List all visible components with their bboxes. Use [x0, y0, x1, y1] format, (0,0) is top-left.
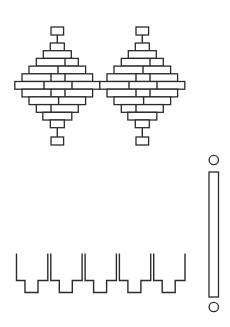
top-box — [136, 27, 149, 35]
notched-unit-3 — [85, 254, 116, 293]
notched-unit-2 — [51, 254, 82, 293]
brick-row — [43, 51, 71, 59]
brick-row — [22, 74, 93, 82]
brick-row — [135, 120, 149, 128]
brick-row — [29, 97, 86, 105]
brick-diamond-1 — [15, 27, 100, 145]
brick-row — [22, 89, 93, 97]
brick-row — [128, 51, 156, 59]
bottom-box — [51, 137, 64, 145]
notched-unit-5 — [154, 254, 185, 293]
brick-row — [107, 89, 178, 97]
brick-row — [50, 43, 64, 51]
pattern-diagram — [0, 0, 230, 327]
notched-unit-1 — [17, 254, 48, 293]
brick-row — [114, 97, 171, 105]
brick-row — [50, 120, 64, 128]
brick-row — [15, 82, 100, 90]
notched-strip — [17, 254, 186, 293]
top-circle-icon — [209, 155, 218, 164]
notched-unit-4 — [119, 254, 150, 293]
brick-row — [36, 58, 78, 66]
brick-row — [121, 105, 163, 113]
vertical-bar — [209, 172, 219, 297]
brick-row — [36, 105, 78, 113]
brick-diamond-group — [15, 27, 185, 145]
top-box — [51, 27, 64, 35]
brick-row — [128, 112, 157, 120]
brick-row — [107, 74, 178, 82]
brick-row — [135, 43, 149, 51]
bottom-box — [136, 137, 149, 145]
brick-row — [43, 112, 72, 120]
brick-diamond-2 — [100, 27, 185, 145]
bottom-circle-icon — [209, 302, 218, 311]
brick-row — [100, 82, 185, 90]
brick-row — [121, 58, 163, 66]
vertical-bar-group — [209, 155, 219, 311]
